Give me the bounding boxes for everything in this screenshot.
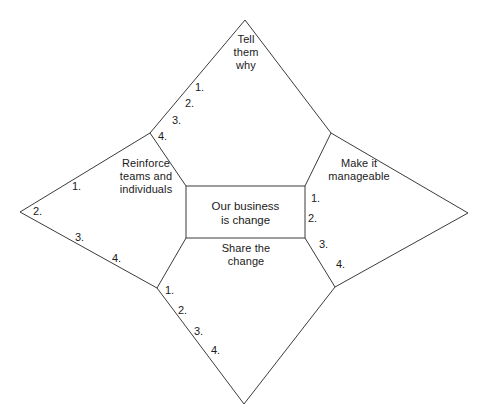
quadrant-left-item-3: 3. <box>75 231 84 243</box>
quadrant-right-item-3: 3. <box>319 238 328 250</box>
center-label: Our business is change <box>186 199 305 227</box>
quadrant-left-item-1: 1. <box>72 180 81 192</box>
star-diagram: Our business is change Tell them why 1. … <box>0 0 487 418</box>
quadrant-bottom-item-4: 4. <box>211 344 220 356</box>
quadrant-label-left: Reinforce teams and individuals <box>104 157 188 196</box>
quadrant-label-bottom: Share the change <box>202 242 290 268</box>
quadrant-bottom-item-3: 3. <box>194 325 203 337</box>
quadrant-left-item-4: 4. <box>112 252 121 264</box>
quadrant-bottom-item-1: 1. <box>165 284 174 296</box>
quadrant-right-item-4: 4. <box>336 258 345 270</box>
quadrant-label-right: Make it manageable <box>316 157 402 183</box>
quadrant-top-item-1: 1. <box>195 81 204 93</box>
quadrant-label-top: Tell them why <box>215 33 277 72</box>
quadrant-right-item-1: 1. <box>311 192 320 204</box>
quadrant-top-item-2: 2. <box>185 97 194 109</box>
quadrant-right-item-2: 2. <box>308 212 317 224</box>
quadrant-bottom-item-2: 2. <box>178 304 187 316</box>
quadrant-top-item-3: 3. <box>172 114 181 126</box>
spoke-bottom-left <box>157 238 186 288</box>
quadrant-left-item-2: 2. <box>33 205 42 217</box>
quadrant-top-item-4: 4. <box>158 130 167 142</box>
